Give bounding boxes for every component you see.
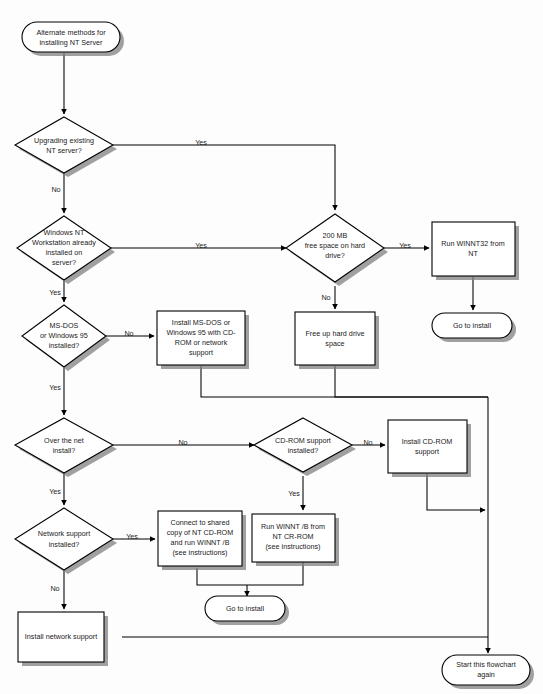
node-terminator-goto-install-mid: Go to install [205,596,289,625]
node-connectshared-line-1: Connect to shared [170,518,229,527]
node-overnet-line-2: install? [53,446,76,455]
flowchart-svg: Alternate methods for installing NT Serv… [0,0,543,694]
node-decision-upgrading: Upgrading existing NT server? [15,117,117,177]
node-startagain-line-1: Start this flowchart [456,660,516,669]
node-start-line-2: installing NT Server [40,38,104,47]
node-freeup-line-1: Free up hard drive [305,329,364,338]
node-process-free-up-space: Free up hard drive space [295,312,379,369]
flowchart-canvas: Alternate methods for installing NT Serv… [0,0,543,694]
node-process-connect-shared: Connect to shared copy of NT CD-ROM and … [158,511,246,570]
edge-label-ntws-yes-down: Yes [49,288,61,297]
edge-upgrading-yes [113,145,335,210]
edge-freeup-to-trunk [335,366,488,397]
node-msdos-line-2: or Windows 95 [40,331,88,340]
edge-label-200mb-yes: Yes [399,241,411,250]
node-200mb-line-3: drive? [325,251,345,260]
edge-label-cdrom-yes: Yes [288,489,300,498]
node-msdos-line-1: MS-DOS [50,321,79,330]
node-200mb-line-2: free space on hard [305,241,365,250]
node-installmsdos-line-2: Windows 95 with CD- [166,328,236,337]
node-startagain-line-2: again [477,670,495,679]
node-netsupport-line-2: installed? [49,540,80,549]
node-connectshared-line-3: and run WINNT /B [171,538,230,547]
node-gotoinstall-right-label: Go to install [453,321,492,330]
node-process-install-cdrom: Install CD-ROM support [388,420,471,477]
edge-installcdrom-to-trunk [427,474,485,510]
edge-installmsdos-to-trunk [201,366,488,397]
node-runwinntb-line-1: Run WINNT /B from [261,522,325,531]
node-winnt32-line-1: Run WINNT32 from [441,239,504,248]
edge-label-overnet-no: No [178,438,187,447]
node-terminator-start-again: Start this flowchart again [442,655,534,689]
node-process-run-winnt32: Run WINNT32 from NT [432,222,519,280]
node-freeup-line-2: space [325,339,344,348]
node-start-line-1: Alternate methods for [36,28,106,37]
node-start-terminator: Alternate methods for installing NT Serv… [22,22,124,56]
node-connectshared-line-2: copy of NT CD-ROM [167,528,234,537]
node-ntws-line-1: Windows NT [44,228,86,237]
node-installmsdos-line-3: ROM or network [175,338,228,347]
node-connectshared-line-4: (see instructions) [172,548,227,557]
node-installcdrom-line-1: Install CD-ROM [402,437,453,446]
node-cdrom-line-2: installed? [288,446,319,455]
node-decision-cdrom-support: CD-ROM support installed? [254,418,356,476]
node-200mb-line-1: 200 MB [323,231,348,240]
node-upgrading-line-2: NT server? [46,146,82,155]
node-upgrading-line-1: Upgrading existing [34,136,94,145]
edge-connectshared-merge [197,568,247,585]
node-process-run-winnt-b: Run WINNT /B from NT CR-ROM (see instruc… [252,514,339,566]
node-ntws-line-2: Workstation already [32,238,96,247]
node-process-install-network: Install network support [18,612,108,666]
node-ntws-line-3: installed on [46,248,83,257]
node-decision-over-the-net: Over the net install? [15,418,117,477]
node-cdrom-line-1: CD-ROM support [275,436,331,445]
edge-label-cdrom-no: No [363,438,372,447]
node-gotoinstall-mid-label: Go to install [226,604,265,613]
edge-label-netsupport-yes: Yes [126,532,138,541]
node-decision-200mb: 200 MB free space on hard drive? [286,214,388,286]
edge-label-msdos-yes: Yes [49,383,61,392]
node-runwinntb-line-3: (see instructions) [265,542,320,551]
node-process-install-msdos: Install MS-DOS or Windows 95 with CD- RO… [157,311,249,369]
node-netsupport-line-1: Network support [38,529,91,538]
edge-label-upgrading-no: No [51,185,60,194]
edge-label-200mb-no: No [321,293,330,302]
node-decision-msdos: MS-DOS or Windows 95 installed? [22,305,110,371]
node-winnt32-line-2: NT [468,249,478,258]
node-installmsdos-line-4: support [189,348,213,357]
node-installnetwork-line-1: Install network support [25,632,97,641]
node-msdos-line-3: installed? [49,341,80,350]
node-decision-network-support: Network support installed? [15,508,117,574]
node-installmsdos-line-1: Install MS-DOS or [172,318,231,327]
node-installcdrom-line-2: support [415,447,439,456]
edge-label-overnet-yes: Yes [49,487,61,496]
node-runwinntb-line-2: NT CR-ROM [272,532,313,541]
edge-label-upgrading-yes: Yes [195,138,207,147]
node-overnet-line-1: Over the net [44,436,84,445]
edge-label-ntws-yes-right: Yes [195,241,207,250]
edge-label-msdos-no: No [124,329,133,338]
edge-label-netsupport-no: No [50,584,59,593]
node-terminator-goto-install-right: Go to install [432,313,516,342]
node-ntws-line-4: server? [52,258,76,267]
node-decision-nt-workstation: Windows NT Workstation already installed… [17,216,115,284]
